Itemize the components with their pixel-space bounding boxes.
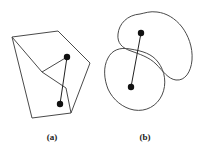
lower-blob-curve	[105, 48, 165, 110]
figure-container: (a) (b)	[0, 0, 200, 147]
upper-blob-curve	[118, 12, 192, 80]
caption-panel-b: (b)	[140, 132, 151, 142]
panel-b-connector-line	[131, 33, 141, 87]
polygon-outline-path	[12, 31, 90, 118]
lower-blob-dot	[128, 84, 134, 90]
upper-blob-dot	[138, 30, 144, 36]
polygon-notch-path	[12, 37, 71, 113]
lower-vertex-dot	[57, 101, 63, 107]
panel-a-connector-line	[60, 57, 67, 104]
upper-vertex-dot	[64, 54, 70, 60]
figure-drawing-canvas	[0, 0, 200, 147]
panel-b-graphic	[105, 12, 193, 111]
caption-panel-a: (a)	[47, 132, 58, 142]
panel-a-graphic	[12, 31, 90, 118]
